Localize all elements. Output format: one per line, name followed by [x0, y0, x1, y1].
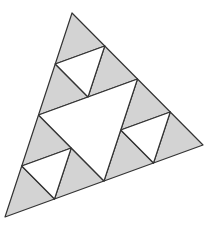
sierpinski-diagram — [0, 0, 214, 228]
